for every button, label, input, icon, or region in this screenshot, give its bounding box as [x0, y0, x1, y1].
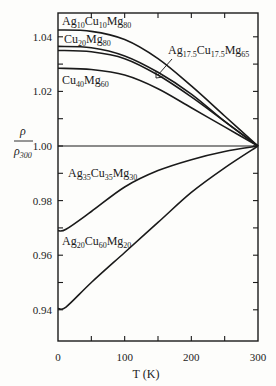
series-labels: Ag10Cu10Mg80Cu20Mg80Ag17.5Cu17.5Mg65Cu40…	[62, 14, 249, 250]
label-ag10cu10mg80: Ag10Cu10Mg80	[62, 14, 131, 30]
axis-ticks: 01002003000.940.960.981.001.021.04	[33, 13, 267, 363]
label-ag20cu60mg20: Ag20Cu60Mg20	[62, 234, 131, 250]
y-tick-label: 1.04	[33, 31, 53, 43]
y-tick-label: 1.02	[33, 85, 52, 97]
resistivity-chart: 01002003000.940.960.981.001.021.04 Ag10C…	[0, 0, 276, 386]
label-ag35cu35mg30: Ag35Cu35Mg30	[68, 166, 137, 182]
y-axis-label-numerator: ρ	[19, 124, 26, 138]
x-axis-label: T (K)	[133, 367, 160, 381]
label-cu20mg80: Cu20Mg80	[64, 32, 111, 48]
y-tick-label: 0.96	[33, 249, 53, 261]
y-tick-label: 0.94	[33, 304, 53, 316]
x-tick-label: 200	[183, 351, 200, 363]
curve-cu20mg80	[58, 46, 258, 146]
x-tick-label: 0	[55, 351, 61, 363]
y-tick-label: 0.98	[33, 195, 53, 207]
curve-ag35cu35mg30	[58, 146, 258, 231]
label-ag17-5cu17-5mg65: Ag17.5Cu17.5Mg65	[168, 43, 249, 59]
x-tick-label: 100	[116, 351, 133, 363]
x-tick-label: 300	[250, 351, 267, 363]
y-axis-label-denominator: ρ300	[13, 144, 32, 160]
y-tick-label: 1.00	[33, 140, 53, 152]
curve-ag17-5cu17-5mg65	[58, 50, 258, 146]
label-cu40mg60: Cu40Mg60	[62, 73, 109, 89]
data-curves	[58, 30, 258, 309]
